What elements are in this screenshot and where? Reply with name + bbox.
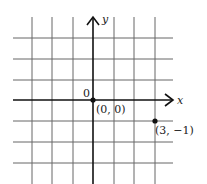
origin-label: 0 [83, 87, 90, 100]
x-axis-label: x [177, 94, 184, 107]
coordinate-plane: x y 0 (0, 0) (3, −1) [0, 0, 207, 184]
point-origin-label: (0, 0) [96, 103, 126, 116]
point-a [152, 118, 157, 123]
point-origin [90, 97, 95, 102]
y-axis-label: y [101, 13, 109, 26]
point-a-label: (3, −1) [155, 124, 194, 137]
